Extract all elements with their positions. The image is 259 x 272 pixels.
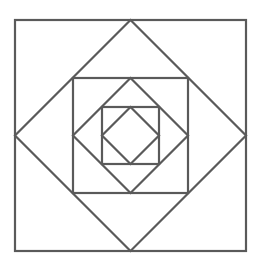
outer-square: [15, 20, 246, 251]
nested-squares-diagram: [0, 0, 259, 272]
inner-square: [102, 107, 159, 164]
middle-diamond: [73, 78, 188, 193]
middle-square: [73, 78, 188, 193]
outer-diamond: [15, 20, 246, 251]
inner-diamond: [102, 107, 159, 164]
